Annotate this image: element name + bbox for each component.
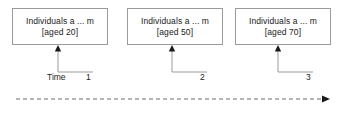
node-box-individuals-aged-70[interactable]: Individuals a ... m [aged 70]	[235, 8, 331, 45]
diagram-canvas: Individuals a ... m [aged 20] Individual…	[0, 0, 340, 113]
timeline-group	[16, 96, 330, 103]
connector-arrowhead-1	[55, 45, 61, 52]
time-axis-label: Time	[47, 72, 66, 82]
node-label-age: [aged 70]	[265, 27, 301, 38]
connector-arrowhead-2	[169, 45, 175, 52]
timepoint-label-1: 1	[86, 72, 91, 82]
connector-elbow-1	[58, 51, 93, 72]
timepoint-label-3: 3	[306, 72, 311, 82]
node-label-primary: Individuals a ... m	[26, 16, 94, 27]
node-label-age: [aged 20]	[42, 27, 78, 38]
node-box-individuals-aged-50[interactable]: Individuals a ... m [aged 50]	[127, 8, 223, 45]
timeline-arrowhead-icon	[322, 96, 330, 103]
node-label-age: [aged 50]	[157, 27, 193, 38]
connector-arrowhead-3	[275, 45, 281, 52]
node-label-primary: Individuals a ... m	[249, 16, 317, 27]
timepoint-label-2: 2	[200, 72, 205, 82]
connector-elbow-2	[172, 51, 207, 72]
connector-group	[55, 45, 313, 72]
node-box-individuals-aged-20[interactable]: Individuals a ... m [aged 20]	[12, 8, 108, 45]
connector-elbow-3	[278, 51, 313, 72]
node-label-primary: Individuals a ... m	[141, 16, 209, 27]
